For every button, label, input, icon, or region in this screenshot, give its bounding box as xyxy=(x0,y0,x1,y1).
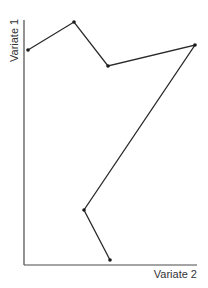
data-point xyxy=(82,208,86,212)
data-point xyxy=(26,48,30,52)
data-point xyxy=(193,43,197,47)
data-point xyxy=(72,20,76,24)
y-axis-label: Variate 1 xyxy=(8,19,20,62)
data-point xyxy=(108,258,112,262)
data-point xyxy=(106,64,110,68)
data-points xyxy=(26,20,197,262)
x-axis-label: Variate 2 xyxy=(154,268,197,280)
line-chart: Variate 1 Variate 2 xyxy=(0,0,208,288)
data-line xyxy=(28,22,195,260)
